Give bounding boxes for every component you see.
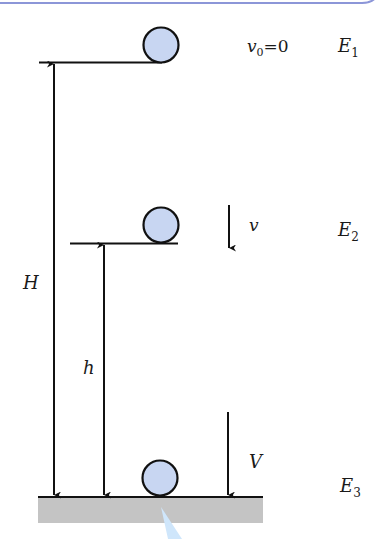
label-E3: E3: [339, 475, 361, 500]
label-h: h: [83, 357, 95, 378]
ground-slab: [38, 497, 263, 523]
label-E1: E1: [337, 35, 359, 60]
frame-border: [0, 0, 378, 3]
ball-middle: [144, 208, 179, 243]
label-E2: E2: [337, 219, 359, 244]
ball-top: [144, 28, 179, 63]
label-H: H: [22, 272, 39, 293]
label-v: v: [249, 215, 259, 235]
ball-ground: [143, 461, 178, 496]
free-fall-energy-diagram: v0=0 E1 v E2 H h V E3: [0, 0, 390, 539]
label-v0: v0=0: [247, 36, 289, 59]
label-V: V: [249, 451, 264, 472]
